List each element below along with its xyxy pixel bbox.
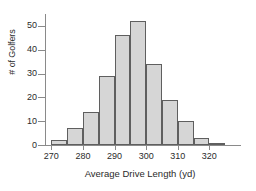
y-tick-label: 10 bbox=[15, 117, 37, 126]
x-tick-label: 300 bbox=[131, 152, 161, 161]
x-tick-label: 290 bbox=[100, 152, 130, 161]
x-tick-mark bbox=[209, 145, 210, 150]
plot-area bbox=[45, 14, 241, 145]
x-axis-line bbox=[45, 145, 241, 146]
y-tick-label: 0 bbox=[15, 141, 37, 150]
y-tick-label: 50 bbox=[15, 21, 37, 30]
histogram-bar bbox=[194, 138, 210, 145]
y-tick-mark bbox=[38, 145, 45, 146]
y-tick-label: 40 bbox=[15, 45, 37, 54]
x-tick-mark bbox=[83, 145, 84, 150]
y-tick-mark bbox=[38, 50, 45, 51]
y-tick-mark bbox=[38, 74, 45, 75]
histogram-bar bbox=[115, 35, 131, 145]
histogram-bar bbox=[130, 21, 146, 145]
x-axis-title: Average Drive Length (yd) bbox=[0, 168, 256, 179]
histogram-chart: # of Golfers 01020304050 270280290300310… bbox=[0, 0, 256, 191]
x-tick-mark bbox=[115, 145, 116, 150]
x-tick-label: 270 bbox=[36, 152, 66, 161]
y-tick-label: 30 bbox=[15, 69, 37, 78]
x-tick-label: 320 bbox=[194, 152, 224, 161]
histogram-bar bbox=[162, 100, 178, 145]
x-tick-label: 310 bbox=[163, 152, 193, 161]
histogram-bar bbox=[146, 64, 162, 145]
y-tick-mark bbox=[38, 121, 45, 122]
histogram-bar bbox=[209, 143, 225, 145]
y-tick-mark bbox=[38, 26, 45, 27]
histogram-bar bbox=[51, 140, 67, 145]
x-tick-mark bbox=[146, 145, 147, 150]
x-tick-mark bbox=[178, 145, 179, 150]
histogram-bar bbox=[99, 76, 115, 145]
histogram-bar bbox=[178, 121, 194, 145]
x-tick-label: 280 bbox=[68, 152, 98, 161]
histogram-bar bbox=[67, 128, 83, 145]
y-tick-mark bbox=[38, 97, 45, 98]
x-tick-mark bbox=[51, 145, 52, 150]
y-tick-label: 20 bbox=[15, 93, 37, 102]
histogram-bar bbox=[83, 112, 99, 145]
